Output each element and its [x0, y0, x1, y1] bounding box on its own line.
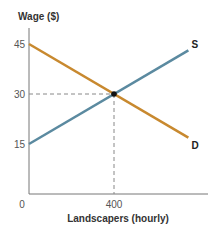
x-tick-label: 400	[106, 199, 123, 210]
equilibrium-group	[111, 91, 117, 97]
demand-curve-label: D	[191, 140, 198, 151]
y-tick-label: 30	[14, 89, 26, 100]
supply-curve-label: S	[191, 39, 198, 50]
x-tick-label: 0	[19, 199, 25, 210]
reference-lines	[29, 94, 114, 194]
demand-curve	[29, 44, 188, 138]
equilibrium-point	[111, 91, 117, 97]
supply-curve	[29, 50, 188, 144]
y-tick-label: 45	[14, 39, 26, 50]
y-axis-title: Wage ($)	[18, 11, 59, 22]
tick-labels: 1530450400	[14, 39, 123, 210]
x-axis-title: Landscapers (hourly)	[67, 213, 169, 224]
axes	[29, 28, 208, 194]
supply-demand-chart: Wage ($) Landscapers (hourly) 1530450400…	[0, 0, 221, 235]
y-tick-label: 15	[14, 139, 26, 150]
